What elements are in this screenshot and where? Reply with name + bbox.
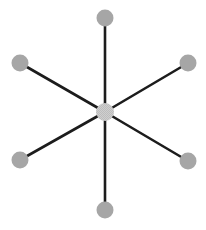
hub-group [96,103,114,121]
node-top [97,10,114,27]
node-hub [96,103,114,121]
edge-hub-to-upper-left [20,63,105,112]
edge-hub-to-upper-right [105,63,188,112]
node-bottom [97,202,114,219]
star-graph-diagram [0,0,206,230]
node-lower-right [180,153,197,170]
node-upper-right [180,55,197,72]
edge-hub-to-lower-left [20,112,105,160]
node-upper-left [12,55,29,72]
edge-hub-to-lower-right [105,112,188,161]
node-lower-left [12,152,29,169]
